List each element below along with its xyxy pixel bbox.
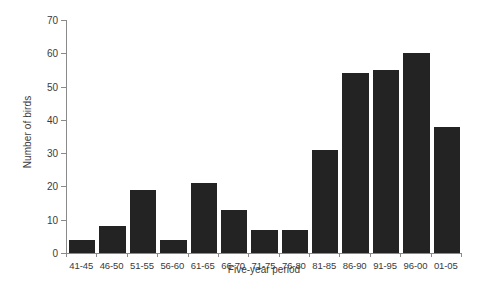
y-axis-tick-label: 50 (47, 81, 58, 92)
plot-area: 010203040506070 41-4546-5051-5556-6061-6… (66, 20, 462, 253)
y-axis-tick-label: 0 (52, 248, 58, 259)
x-axis-line (66, 253, 462, 254)
x-axis-tick-mark (188, 253, 189, 257)
x-axis-tick-mark (431, 253, 432, 257)
bar (282, 230, 308, 253)
bar (99, 226, 125, 253)
y-axis-tick-mark (61, 20, 66, 21)
y-axis-tick-mark (61, 220, 66, 221)
bar (312, 150, 338, 253)
x-axis-tick-mark (400, 253, 401, 257)
x-axis-title: Five-year period (66, 264, 462, 275)
y-axis-tick-label: 40 (47, 114, 58, 125)
bar-chart: Number of birds 010203040506070 41-4546-… (0, 0, 490, 300)
y-axis-title: Number of birds (22, 2, 38, 262)
y-axis-tick-mark (61, 186, 66, 187)
y-axis-tick-mark (61, 120, 66, 121)
x-axis-tick-mark (309, 253, 310, 257)
x-axis-tick-mark (157, 253, 158, 257)
y-axis-tick-label: 20 (47, 181, 58, 192)
bar (373, 70, 399, 253)
x-axis-tick-mark (96, 253, 97, 257)
bar (191, 183, 217, 253)
bar (221, 210, 247, 253)
x-axis-tick-mark (218, 253, 219, 257)
x-axis-tick-mark (370, 253, 371, 257)
y-axis-tick-mark (61, 87, 66, 88)
y-axis-tick-label: 10 (47, 214, 58, 225)
y-axis-tick-mark (61, 153, 66, 154)
y-axis-tick-label: 30 (47, 148, 58, 159)
bar (342, 73, 368, 253)
y-axis-tick-label: 60 (47, 48, 58, 59)
bar (403, 53, 429, 253)
bar (69, 240, 95, 253)
bar (130, 190, 156, 253)
bar (160, 240, 186, 253)
x-axis-tick-mark (127, 253, 128, 257)
x-axis-tick-mark (248, 253, 249, 257)
x-axis-tick-mark (339, 253, 340, 257)
y-axis-tick-mark (61, 53, 66, 54)
x-axis-tick-mark (279, 253, 280, 257)
bar (251, 230, 277, 253)
x-axis-tick-mark (461, 253, 462, 257)
bar (434, 127, 460, 253)
y-axis-tick-label: 70 (47, 15, 58, 26)
bars-layer (67, 20, 462, 253)
x-axis-tick-mark (66, 253, 67, 257)
